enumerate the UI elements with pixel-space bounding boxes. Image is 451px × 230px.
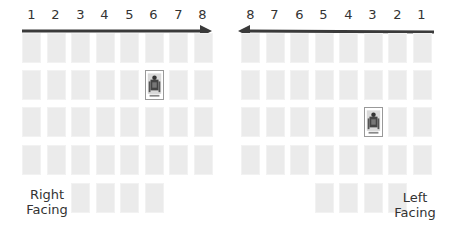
highlighted-card [145, 70, 164, 100]
label-line: Right [20, 187, 74, 202]
card-slot [266, 70, 285, 100]
card-slot [413, 107, 432, 137]
column-number: 2 [46, 7, 65, 22]
column-number: 6 [290, 7, 309, 22]
card-slot [47, 70, 66, 100]
label-line: Left [390, 190, 440, 205]
card-slot [315, 145, 334, 175]
card-slot [290, 145, 309, 175]
column-number: 1 [22, 7, 41, 22]
card-slot [194, 33, 213, 63]
column-number: 5 [120, 7, 139, 22]
card-slot [364, 183, 383, 213]
left-facing-label: Left Facing [390, 190, 440, 220]
card-slot [241, 107, 260, 137]
card-slot [120, 183, 139, 213]
card-slot [241, 33, 260, 63]
card-slot [413, 33, 432, 63]
card-slot [364, 33, 383, 63]
card-slot [290, 33, 309, 63]
column-number: 5 [314, 7, 333, 22]
card-slot [96, 70, 115, 100]
label-line: Facing [390, 205, 440, 220]
card-slot [169, 107, 188, 137]
card-slot [241, 70, 260, 100]
card-slot [47, 33, 66, 63]
card-slot [413, 145, 432, 175]
card-slot [120, 107, 139, 137]
card-slot [169, 70, 188, 100]
card-slot [71, 70, 90, 100]
diagram: 1 2 3 4 5 6 7 8 Right Facing 8 7 6 5 4 3… [0, 0, 451, 230]
card-slot [364, 145, 383, 175]
card-slot [22, 145, 41, 175]
card-slot [339, 33, 358, 63]
card-slot [266, 33, 285, 63]
column-number: 4 [95, 7, 114, 22]
card-slot [96, 107, 115, 137]
card-slot [169, 145, 188, 175]
card-slot [22, 33, 41, 63]
card-slot [339, 107, 358, 137]
card-slot [71, 33, 90, 63]
card-slot [339, 183, 358, 213]
card-slot [290, 70, 309, 100]
column-number: 4 [339, 7, 358, 22]
card-slot [120, 33, 139, 63]
card-slot [194, 70, 213, 100]
column-number: 8 [193, 7, 212, 22]
card-slot [145, 183, 164, 213]
card-slot [266, 145, 285, 175]
card-slot [339, 70, 358, 100]
card-slot [339, 145, 358, 175]
card-slot [22, 107, 41, 137]
card-slot [120, 70, 139, 100]
card-slot [22, 70, 41, 100]
column-number: 2 [388, 7, 407, 22]
card-slot [315, 70, 334, 100]
right-facing-label: Right Facing [20, 187, 74, 217]
card-slot [315, 107, 334, 137]
card-slot [388, 107, 407, 137]
card-slot [364, 70, 383, 100]
column-number: 1 [412, 7, 431, 22]
highlighted-card [364, 107, 383, 137]
column-number: 7 [169, 7, 188, 22]
card-slot [266, 107, 285, 137]
card-slot [194, 107, 213, 137]
card-slot [315, 33, 334, 63]
card-slot [71, 145, 90, 175]
card-slot [241, 145, 260, 175]
card-slot [145, 145, 164, 175]
card-slot [169, 33, 188, 63]
card-slot [145, 107, 164, 137]
card-slot [96, 145, 115, 175]
column-number: 8 [241, 7, 260, 22]
column-number: 6 [144, 7, 163, 22]
card-slot [145, 33, 164, 63]
card-slot [120, 145, 139, 175]
card-slot [290, 107, 309, 137]
card-slot [96, 183, 115, 213]
card-slot [194, 145, 213, 175]
card-slot [388, 70, 407, 100]
card-slot [388, 33, 407, 63]
column-number: 3 [71, 7, 90, 22]
card-slot [96, 33, 115, 63]
label-line: Facing [20, 202, 74, 217]
column-number: 3 [363, 7, 382, 22]
card-slot [388, 145, 407, 175]
card-slot [47, 145, 66, 175]
column-number: 7 [265, 7, 284, 22]
card-slot [413, 70, 432, 100]
card-slot [71, 107, 90, 137]
card-slot [47, 107, 66, 137]
card-slot [315, 183, 334, 213]
